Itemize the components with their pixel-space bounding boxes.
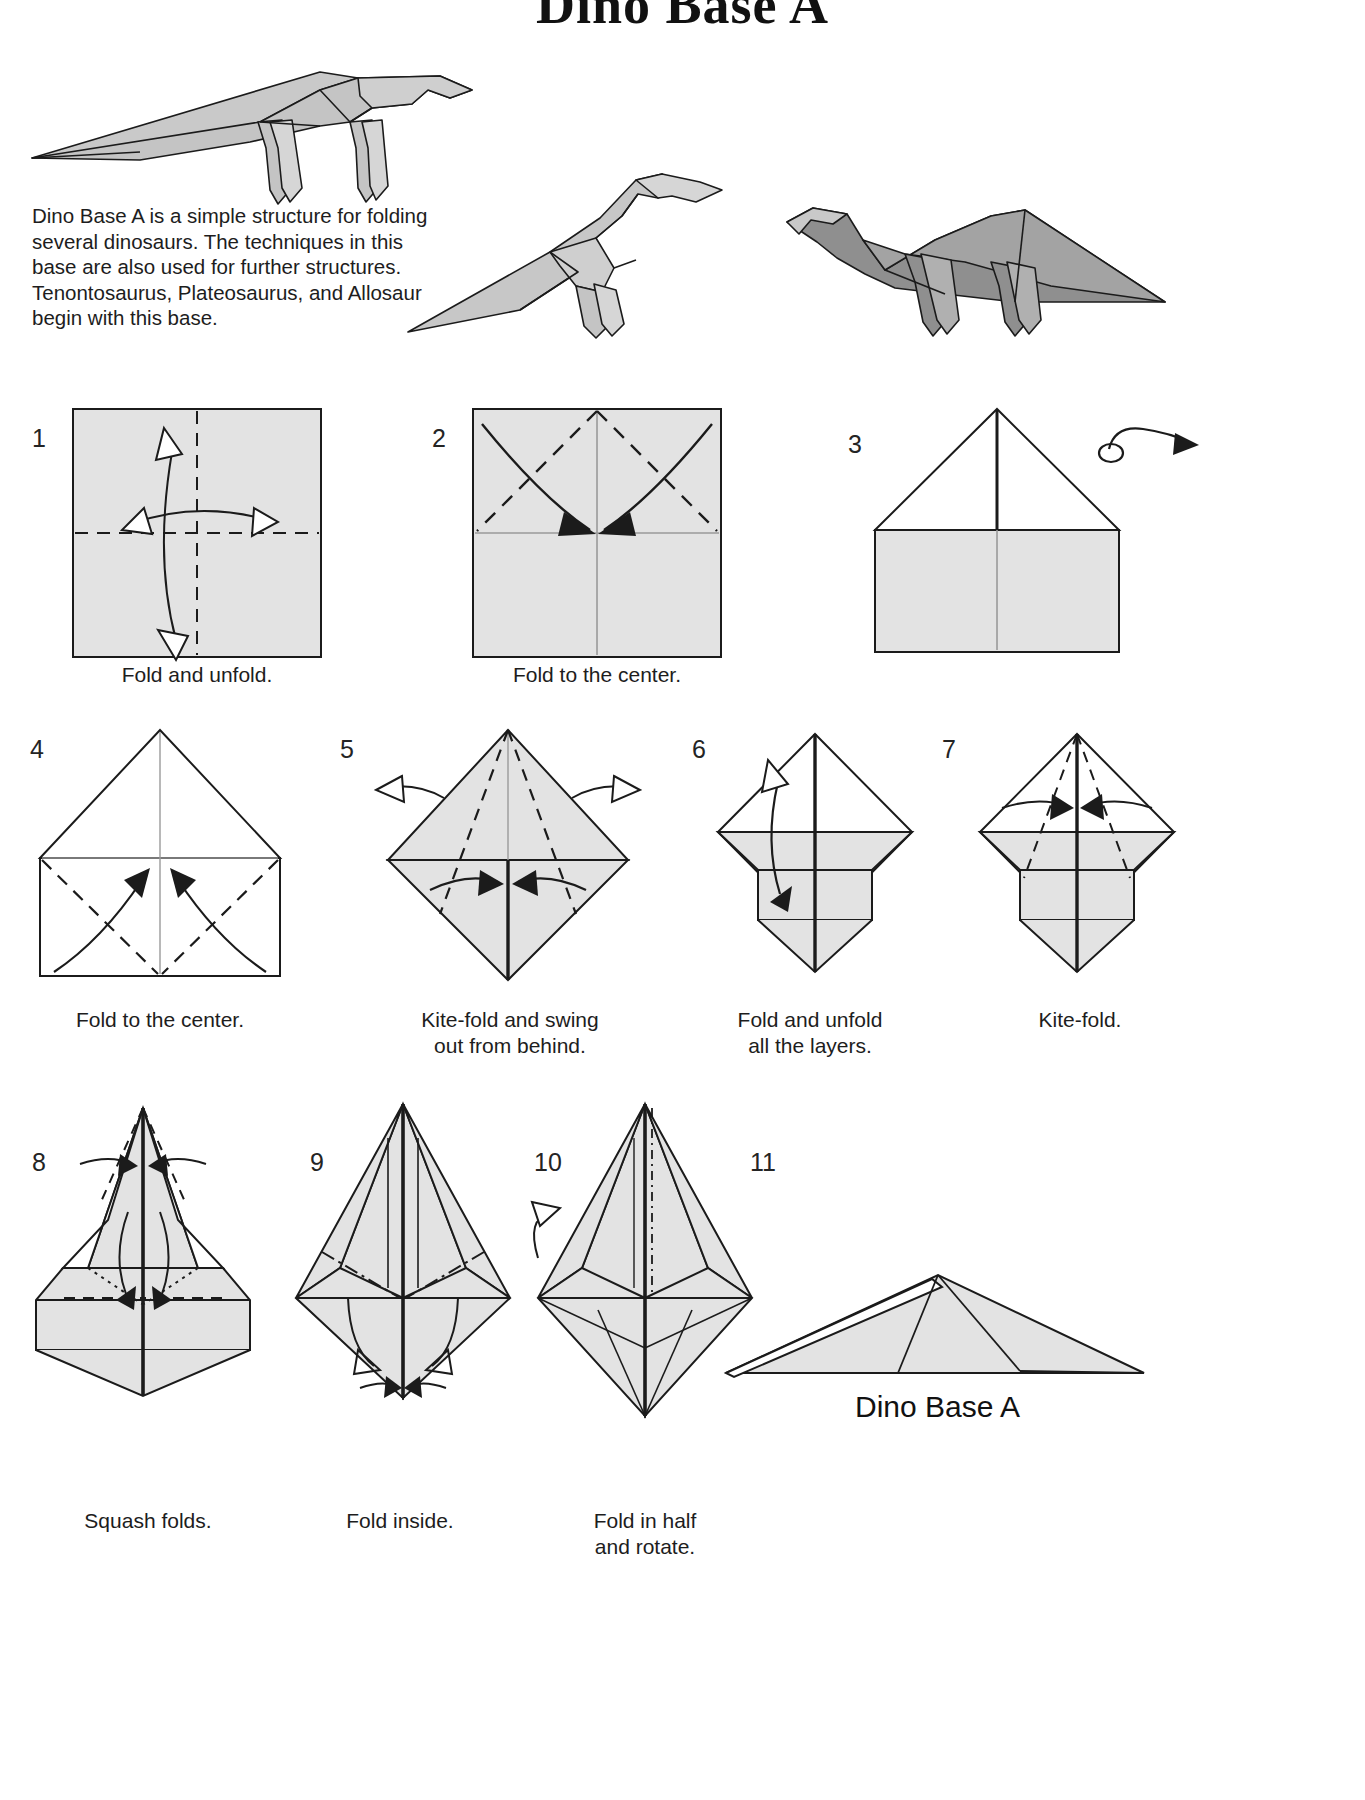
step-7-diagram	[962, 722, 1192, 984]
step-2-caption: Fold to the center.	[452, 662, 742, 688]
step-6-diagram	[700, 722, 930, 984]
allosaur-model	[400, 160, 730, 345]
step-7-caption: Kite-fold.	[960, 1007, 1200, 1033]
step-9-diagram	[288, 1098, 518, 1408]
step-2-diagram	[472, 408, 722, 658]
step-10-caption: Fold in half and rotate.	[500, 1508, 790, 1560]
step-9-caption: Fold inside.	[270, 1508, 530, 1534]
step-1-caption: Fold and unfold.	[62, 662, 332, 688]
step-3-diagram	[872, 405, 1122, 655]
step-number-5: 5	[340, 735, 354, 764]
step-6-caption: Fold and unfold all the layers.	[660, 1007, 960, 1059]
intro-text: Dino Base A is a simple structure for fo…	[32, 203, 432, 331]
plateosaurus-model	[755, 162, 1175, 347]
step-8-caption: Squash folds.	[18, 1508, 278, 1534]
step-1-diagram	[72, 408, 322, 658]
step-number-11: 11	[750, 1148, 776, 1177]
origami-instruction-page: Dino Base A	[0, 0, 1365, 1800]
step-5-caption: Kite-fold and swing out from behind.	[370, 1007, 650, 1059]
step-11-diagram	[720, 1265, 1145, 1395]
step-number-2: 2	[432, 424, 446, 453]
step-number-3: 3	[848, 430, 862, 459]
step-8-diagram	[28, 1100, 258, 1400]
step-number-7: 7	[942, 735, 956, 764]
step-5-diagram	[368, 718, 648, 988]
final-base-label: Dino Base A	[855, 1390, 1020, 1424]
turnover-arrow-icon	[1095, 415, 1200, 475]
step-4-caption: Fold to the center.	[20, 1007, 300, 1033]
step-number-1: 1	[32, 424, 46, 453]
step-4-diagram	[32, 722, 288, 982]
